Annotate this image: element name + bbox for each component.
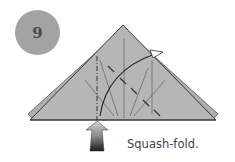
step-caption: Squash-fold. <box>127 137 199 151</box>
origami-diagram <box>0 0 235 162</box>
push-arrow-icon <box>86 121 108 151</box>
